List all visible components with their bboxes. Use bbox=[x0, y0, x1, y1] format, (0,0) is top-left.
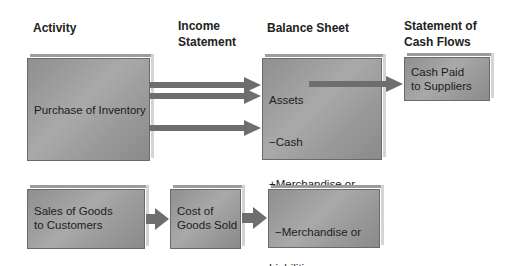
arrow-purchase-to-liabilities bbox=[150, 120, 261, 136]
arrow-cogs-to-merchandise bbox=[242, 207, 267, 229]
arrows-layer bbox=[0, 0, 518, 266]
arrow-cash-to-cash-paid bbox=[309, 76, 403, 92]
arrow-sales-to-cogs bbox=[146, 208, 169, 230]
arrow-purchase-to-cash bbox=[150, 88, 261, 104]
